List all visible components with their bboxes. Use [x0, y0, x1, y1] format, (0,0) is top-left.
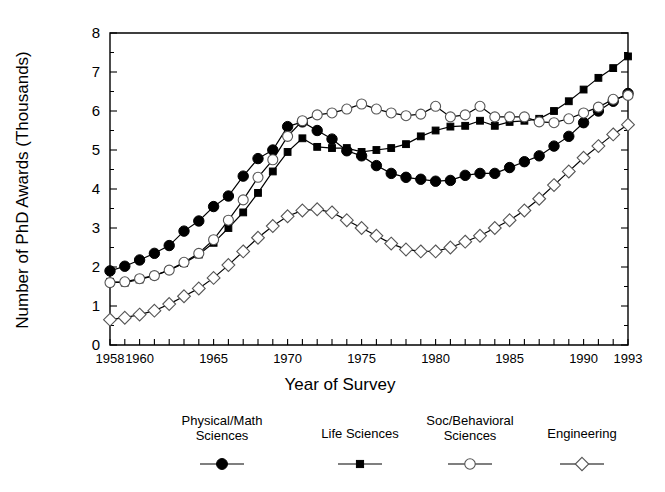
data-point-open-circle	[223, 215, 233, 225]
data-point-filled-circle	[416, 174, 426, 184]
data-point-filled-circle	[475, 168, 485, 178]
data-point-open-diamond	[622, 118, 635, 131]
phd-awards-line-chart: 012345678 195819601965197019751980198519…	[0, 0, 665, 492]
data-point-filled-square	[388, 145, 395, 152]
data-point-open-diamond	[459, 235, 472, 248]
data-point-open-circle	[105, 278, 115, 288]
data-point-filled-circle	[223, 191, 233, 201]
data-point-open-circle	[386, 108, 396, 118]
data-point-filled-square	[255, 190, 262, 197]
data-series-layer	[104, 53, 635, 326]
data-point-open-diamond	[340, 214, 353, 227]
data-point-open-circle	[445, 112, 455, 122]
data-point-open-diamond	[148, 304, 161, 317]
legend-label: Engineering	[547, 426, 616, 441]
data-point-open-diamond	[575, 457, 588, 470]
series-line	[110, 125, 628, 320]
data-point-filled-circle	[253, 153, 263, 163]
x-axis-title: Year of Survey	[285, 375, 396, 394]
data-point-filled-square	[447, 123, 454, 130]
data-point-filled-circle	[549, 141, 559, 151]
data-point-open-diamond	[488, 222, 501, 235]
data-point-filled-circle	[164, 240, 174, 250]
data-point-open-circle	[593, 102, 603, 112]
data-point-filled-square	[610, 65, 617, 72]
x-axis-ticks	[110, 339, 628, 345]
data-point-open-circle	[312, 110, 322, 120]
data-point-filled-circle	[371, 160, 381, 170]
data-point-open-circle	[357, 99, 367, 109]
legend-item-1[interactable]: Life Sciences	[321, 426, 399, 468]
data-point-filled-circle	[327, 134, 337, 144]
data-point-filled-circle	[217, 459, 228, 470]
data-point-open-circle	[327, 108, 337, 118]
data-point-open-diamond	[118, 311, 131, 324]
y-tick-label: 5	[92, 141, 100, 158]
x-tick-label: 1990	[569, 351, 598, 366]
y-tick-label: 4	[92, 180, 100, 197]
data-point-filled-square	[329, 145, 336, 152]
x-tick-label: 1993	[614, 351, 643, 366]
legend-label: Soc/Behavioral	[426, 413, 514, 428]
data-point-filled-circle	[564, 131, 574, 141]
data-point-open-circle	[431, 101, 441, 111]
x-tick-label: 1980	[421, 351, 450, 366]
data-point-open-circle	[465, 459, 476, 470]
data-point-filled-square	[595, 74, 602, 81]
y-tick-label: 6	[92, 102, 100, 119]
data-point-filled-circle	[238, 171, 248, 181]
data-point-filled-square	[551, 108, 558, 115]
data-point-filled-square	[491, 122, 498, 129]
data-point-open-circle	[519, 112, 529, 122]
data-point-filled-circle	[312, 125, 322, 135]
data-point-open-circle	[297, 116, 307, 126]
series-line	[110, 56, 628, 282]
data-point-filled-square	[356, 460, 363, 467]
data-point-open-circle	[490, 112, 500, 122]
data-point-filled-circle	[105, 266, 115, 276]
data-point-open-circle	[164, 265, 174, 275]
data-point-filled-circle	[519, 157, 529, 167]
data-point-open-circle	[534, 117, 544, 127]
data-point-filled-square	[314, 143, 321, 150]
chart-figure: 012345678 195819601965197019751980198519…	[0, 0, 665, 492]
data-point-open-diamond	[400, 243, 413, 256]
data-point-open-diamond	[163, 298, 176, 311]
data-point-filled-square	[343, 145, 350, 152]
data-point-open-diamond	[326, 206, 339, 219]
y-tick-label: 2	[92, 258, 100, 275]
data-point-open-circle	[283, 131, 293, 141]
data-point-open-circle	[549, 118, 559, 128]
data-point-filled-square	[373, 147, 380, 154]
data-point-filled-circle	[430, 176, 440, 186]
data-point-filled-circle	[208, 201, 218, 211]
data-point-open-circle	[608, 94, 618, 104]
series-1	[107, 53, 632, 286]
x-tick-label: 1965	[199, 351, 228, 366]
x-tick-label: 1960	[125, 351, 154, 366]
data-point-filled-square	[403, 141, 410, 148]
data-point-filled-circle	[179, 226, 189, 236]
data-point-filled-square	[417, 133, 424, 140]
data-point-open-circle	[505, 112, 515, 122]
y-tick-label: 3	[92, 219, 100, 236]
legend-item-0[interactable]: Physical/MathSciences	[182, 413, 263, 469]
data-point-filled-circle	[445, 175, 455, 185]
data-point-open-diamond	[607, 128, 620, 141]
data-point-open-diamond	[266, 220, 279, 233]
legend-item-2[interactable]: Soc/BehavioralSciences	[426, 413, 514, 469]
data-point-open-diamond	[133, 308, 146, 321]
data-point-open-circle	[135, 274, 145, 284]
y-axis-title: Number of PhD Awards (Thousands)	[13, 51, 32, 328]
data-point-open-diamond	[474, 229, 487, 242]
data-point-filled-square	[299, 135, 306, 142]
y-tick-label: 1	[92, 297, 100, 314]
data-point-open-diamond	[311, 203, 324, 216]
data-point-open-diamond	[355, 222, 368, 235]
data-point-open-circle	[342, 104, 352, 114]
legend-label: Sciences	[196, 428, 249, 443]
data-point-filled-circle	[282, 121, 292, 131]
legend-item-3[interactable]: Engineering	[547, 426, 616, 471]
data-point-open-diamond	[104, 313, 117, 326]
data-point-filled-circle	[504, 162, 514, 172]
